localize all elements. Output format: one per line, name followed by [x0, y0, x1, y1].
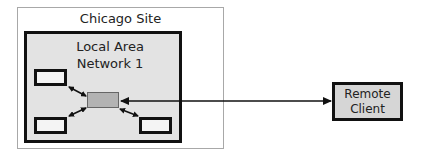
link-bottom-left	[69, 108, 86, 116]
link-top-left	[69, 87, 86, 96]
connection-lines	[0, 0, 429, 156]
link-bottom-right	[120, 109, 138, 116]
